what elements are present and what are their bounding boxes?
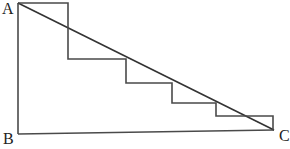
- label-a: A: [2, 0, 14, 17]
- label-b: B: [3, 130, 14, 147]
- side-bc: [18, 130, 274, 134]
- staircase-triangle-diagram: A B C: [0, 0, 290, 149]
- label-c: C: [279, 127, 290, 144]
- hypotenuse-ac: [18, 3, 274, 130]
